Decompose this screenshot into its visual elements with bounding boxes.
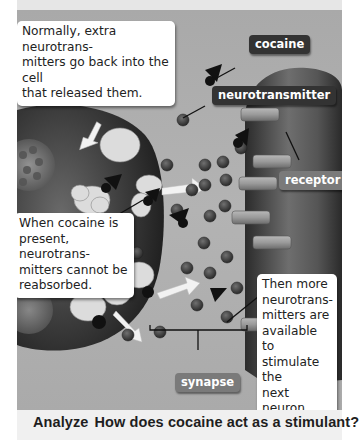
callout-normally: Normally, extra neurotrans- mitters go b…: [17, 21, 175, 106]
caption-panel: AnalyzeHow does cocaine act as a stimula…: [17, 410, 342, 440]
label-neurotransmitter: neurotransmitter: [212, 86, 336, 105]
callout-cocaine-line-1: When cocaine is: [19, 216, 129, 232]
callout-cocaine-line-2: present, neurotrans-: [19, 232, 129, 263]
synapse-figure: Normally, extra neurotrans- mitters go b…: [17, 0, 342, 440]
analyze-keyword: Analyze: [33, 414, 89, 430]
label-synapse: synapse: [175, 373, 240, 392]
label-receptor: receptor: [279, 171, 342, 190]
callout-then-more-line-5: stimulate the: [262, 355, 332, 386]
callout-then-more-line-4: available to: [262, 324, 332, 355]
callout-cocaine-present: When cocaine is present, neurotrans- mit…: [17, 213, 134, 298]
callout-normally-line-2: mitters go back into the cell: [22, 55, 170, 86]
callout-cocaine-line-3: mitters cannot be: [19, 263, 129, 279]
label-cocaine: cocaine: [249, 35, 310, 54]
callout-normally-line-1: Normally, extra neurotrans-: [22, 24, 170, 55]
callout-cocaine-line-4: reabsorbed.: [19, 278, 129, 294]
callout-then-more-line-1: Then more: [262, 277, 332, 293]
synapse-diagram: Normally, extra neurotrans- mitters go b…: [17, 10, 342, 410]
callout-normally-line-3: that released them.: [22, 86, 170, 102]
callout-then-more-line-2: neurotrans-: [262, 293, 332, 309]
analyze-question: AnalyzeHow does cocaine act as a stimula…: [33, 414, 359, 430]
callout-then-more-line-6: next neuron.: [262, 386, 332, 411]
callout-then-more-line-3: mitters are: [262, 308, 332, 324]
top-band: [17, 0, 342, 10]
analyze-question-text: How does cocaine act as a stimulant?: [95, 414, 359, 430]
callout-then-more: Then more neurotrans- mitters are availa…: [257, 274, 337, 410]
